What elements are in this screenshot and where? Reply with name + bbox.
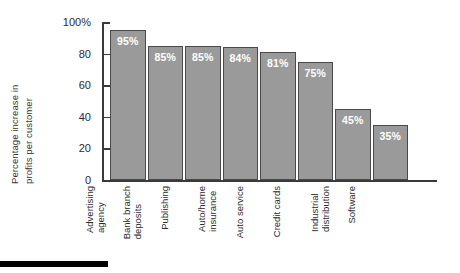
y-axis-tick: 40 <box>102 117 110 119</box>
y-axis-tick-label: 20 <box>79 143 91 154</box>
category-label-line: Industrial <box>310 186 321 232</box>
bar: 35% <box>373 125 409 180</box>
bar-value-label: 81% <box>261 57 295 69</box>
category-label-line: Auto service <box>235 186 246 238</box>
plot-area: 100%806040200 95%85%85%84%81%75%45%35% <box>110 22 408 180</box>
x-axis-line <box>102 180 437 182</box>
bar-value-label: 45% <box>336 114 370 126</box>
y-axis-tick: 0 <box>102 180 110 182</box>
bar-value-label: 95% <box>111 35 145 47</box>
bar-slot: 95% <box>110 22 146 180</box>
category-label: Software <box>347 186 433 224</box>
bar-slot: 45% <box>335 22 371 180</box>
bar-value-label: 75% <box>299 67 333 79</box>
y-axis-tick-label: 0 <box>85 175 91 186</box>
bar-series: 95%85%85%84%81%75%45%35% <box>110 22 408 180</box>
bar-slot: 75% <box>298 22 334 180</box>
category-label-line: agency <box>95 186 106 233</box>
category-label-line: Credit cards <box>272 186 283 237</box>
bar: 95% <box>110 30 146 180</box>
category-label-line: deposits <box>133 186 144 239</box>
bar: 85% <box>185 46 221 180</box>
y-axis-title: Percentage increase in profits per custo… <box>4 18 62 184</box>
bar-slot: 85% <box>148 22 184 180</box>
bar-slot: 35% <box>373 22 409 180</box>
bar-value-label: 84% <box>224 52 258 64</box>
y-axis-tick: 20 <box>102 148 110 150</box>
bar: 84% <box>223 47 259 180</box>
bar: 45% <box>335 109 371 180</box>
category-label-slot: Software <box>373 184 409 270</box>
bar-value-label: 85% <box>186 51 220 63</box>
bar-chart: Percentage increase in profits per custo… <box>0 0 460 273</box>
bar: 81% <box>260 52 296 180</box>
bar-slot: 85% <box>185 22 221 180</box>
bar: 85% <box>148 46 184 180</box>
bar-slot: 84% <box>223 22 259 180</box>
category-label-line: insurance <box>208 186 219 232</box>
bar-value-label: 35% <box>374 130 408 142</box>
bar: 75% <box>298 62 334 181</box>
footer-rule <box>0 261 108 267</box>
category-label-line: Software <box>347 186 358 224</box>
y-axis-tick-label: 100% <box>63 17 91 28</box>
x-axis-category-labels: AdvertisingagencyBank branchdepositsPubl… <box>110 184 408 270</box>
y-axis-tick: 100% <box>102 22 110 24</box>
y-axis-tick: 80 <box>102 54 110 56</box>
y-axis-tick-label: 40 <box>79 111 91 122</box>
bar-value-label: 85% <box>149 51 183 63</box>
y-axis-tick: 60 <box>102 85 110 87</box>
category-label-line: Advertising <box>85 186 96 233</box>
y-axis-line <box>102 22 104 181</box>
category-label-line: Publishing <box>160 186 171 230</box>
category-label-line: distribution <box>320 186 331 232</box>
y-axis-tick-label: 80 <box>79 48 91 59</box>
y-axis-title-line-2: profits per customer <box>23 98 34 184</box>
y-axis-tick-label: 60 <box>79 80 91 91</box>
bar-slot: 81% <box>260 22 296 180</box>
y-axis-title-line-1: Percentage increase in <box>9 85 20 184</box>
